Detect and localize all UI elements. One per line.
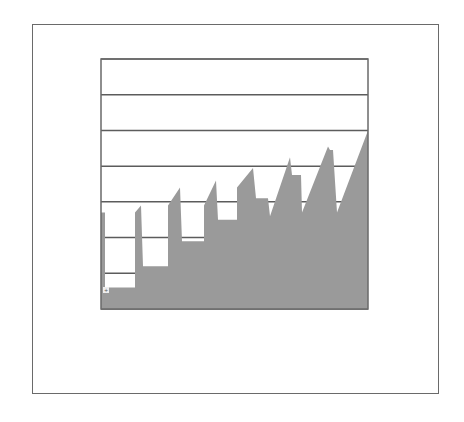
area-chart	[0, 0, 464, 422]
corner-label: +	[103, 287, 109, 293]
